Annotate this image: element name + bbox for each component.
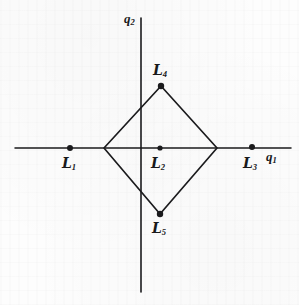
point-dot-L2	[157, 145, 162, 150]
point-label-L3-subscript: 3	[253, 162, 257, 172]
data-points-group	[67, 83, 255, 217]
point-dot-L5	[157, 211, 163, 217]
point-label-L5-subscript: 5	[162, 227, 166, 237]
point-label-L2: L2	[151, 156, 165, 171]
axis-label-q2: q2	[124, 12, 135, 26]
point-label-L3-base: L	[243, 155, 253, 171]
figure-canvas: q1 q2 L1 L2 L3 L4 L5	[0, 0, 299, 305]
point-label-L4-subscript: 4	[163, 69, 167, 79]
point-label-L4: L4	[153, 63, 167, 78]
point-dot-L3	[249, 144, 255, 150]
axis-label-q1-subscript: 1	[273, 155, 277, 165]
point-dot-L1	[67, 145, 73, 151]
coordinate-diagram	[0, 0, 299, 305]
point-label-L3: L3	[243, 156, 257, 171]
point-label-L1: L1	[62, 156, 76, 171]
point-label-L2-subscript: 2	[161, 162, 165, 172]
axis-label-q1: q1	[266, 150, 277, 164]
point-dot-L4	[158, 83, 164, 89]
axis-label-q2-subscript: 2	[131, 17, 135, 27]
point-label-L2-base: L	[151, 155, 161, 171]
point-label-L1-subscript: 1	[72, 162, 76, 172]
point-label-L5: L5	[152, 221, 166, 236]
point-label-L5-base: L	[152, 220, 162, 236]
point-label-L4-base: L	[153, 62, 163, 78]
point-label-L1-base: L	[62, 155, 72, 171]
